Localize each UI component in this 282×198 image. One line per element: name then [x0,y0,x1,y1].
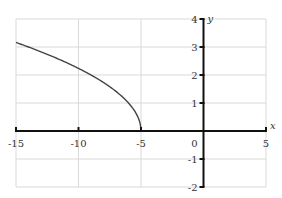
x-tick-label: -10 [70,138,86,149]
grid-lines [16,19,266,187]
x-tick-label: -15 [8,138,24,149]
origin-label: 0 [191,138,197,149]
y-tick-label: -2 [188,182,198,193]
x-tick-label: 5 [263,138,269,149]
x-tick-label: -5 [136,138,146,149]
y-tick-label: 1 [191,98,197,109]
function-plot: -15-10-55-2-112340 x y [0,0,282,198]
y-tick-label: 3 [191,42,197,53]
y-tick-label: -1 [188,154,198,165]
y-tick-label: 4 [191,14,197,25]
x-axis-label: x [270,120,276,131]
y-tick-label: 2 [191,70,197,81]
y-axis-label: y [207,13,214,24]
